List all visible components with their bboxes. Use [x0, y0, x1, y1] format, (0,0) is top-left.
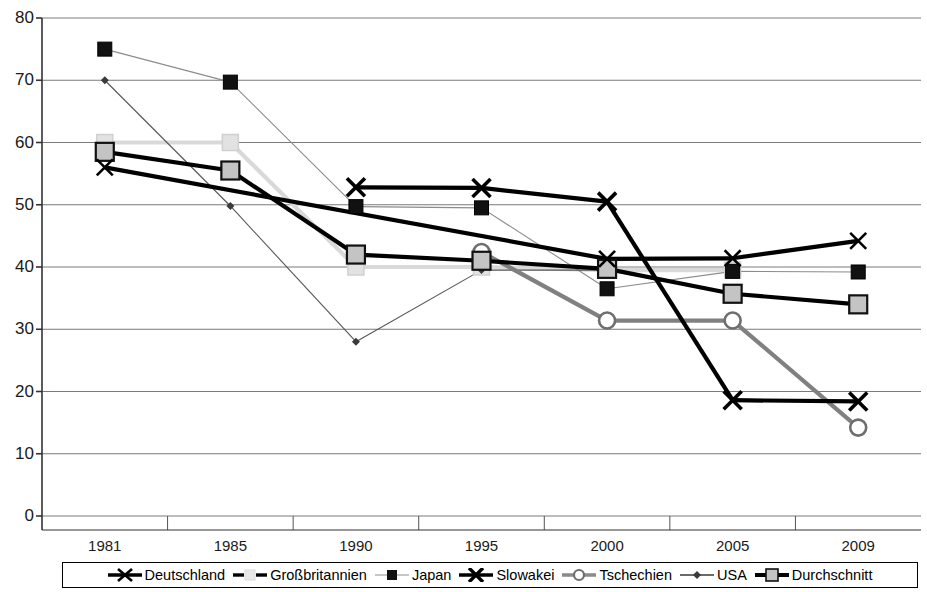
line-chart: 80706050403020100 1981198519901995200020… — [0, 0, 927, 592]
legend-item[interactable]: Durchschnitt — [755, 568, 873, 583]
y-axis-tick-label: 70 — [0, 71, 34, 88]
x-axis-tick-label: 1995 — [437, 538, 527, 553]
y-axis-tick-label: 20 — [0, 383, 34, 400]
legend-item-label: Durchschnitt — [792, 568, 873, 583]
legend-item-label: Slowakei — [496, 568, 554, 583]
legend-item[interactable]: Japan — [375, 568, 452, 583]
x-axis-tick-label: 2009 — [813, 538, 903, 553]
y-axis-tick-label: 40 — [0, 258, 34, 275]
line-black-square-icon — [375, 568, 409, 582]
y-axis-tick-label: 80 — [0, 9, 34, 26]
series-lines — [105, 49, 858, 427]
line-x-marker-icon — [108, 568, 142, 582]
x-axis-tick-label: 1990 — [311, 538, 401, 553]
legend-item[interactable]: Slowakei — [459, 568, 554, 583]
legend-item[interactable]: USA — [680, 568, 747, 583]
legend-item-label: Deutschland — [145, 568, 226, 583]
legend-item[interactable]: Tschechien — [562, 568, 672, 583]
y-axis-tick-label: 30 — [0, 320, 34, 337]
x-axis-tick-label: 1985 — [185, 538, 275, 553]
legend-item-label: USA — [717, 568, 747, 583]
series-markers — [96, 42, 867, 435]
line-light-square-icon — [233, 568, 267, 582]
plot-area: 80706050403020100 1981198519901995200020… — [0, 0, 927, 555]
y-axis-tick-label: 0 — [0, 507, 34, 524]
chart-legend: DeutschlandGroßbritannienJapanSlowakeiTs… — [62, 562, 918, 588]
x-axis-tick-label: 2005 — [688, 538, 778, 553]
legend-item[interactable]: Großbritannien — [233, 568, 367, 583]
legend-item-label: Japan — [412, 568, 452, 583]
y-axis-tick-label: 60 — [0, 134, 34, 151]
chart-canvas — [0, 0, 927, 555]
y-axis-tick-label: 50 — [0, 196, 34, 213]
line-bold-x-icon — [459, 568, 493, 582]
legend-item[interactable]: Deutschland — [108, 568, 226, 583]
line-circle-icon — [562, 568, 596, 582]
line-thin-icon — [680, 568, 714, 582]
x-axis-tick-label: 1981 — [60, 538, 150, 553]
y-axis-tick-label: 10 — [0, 445, 34, 462]
line-gray-square-icon — [755, 568, 789, 582]
legend-item-label: Tschechien — [599, 568, 672, 583]
legend-item-label: Großbritannien — [270, 568, 367, 583]
x-axis-tick-label: 2000 — [562, 538, 652, 553]
